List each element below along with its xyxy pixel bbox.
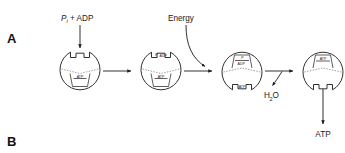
bottom-site-label-2: ATP xyxy=(158,75,165,79)
bottom-site-label-1: ATP xyxy=(77,75,84,79)
energy-input-arrow xyxy=(186,25,205,67)
substrate-adp-text: + ADP xyxy=(70,14,94,23)
enzyme-body-2 xyxy=(141,52,181,90)
panel-label-b: B xyxy=(7,134,16,149)
atp-synthase-cycle-diagram: A B P i + ADP Energy ATP P i ADP ATP xyxy=(0,0,345,153)
enzyme-state-2: P i ADP ATP xyxy=(141,52,181,90)
bottom-site-label-3: ATP xyxy=(239,85,246,89)
catalytic-cleft-dotted-3 xyxy=(224,68,261,72)
top-site-label-subscript-2: i xyxy=(157,55,158,59)
water-o-letter: O xyxy=(273,91,279,100)
top-site-label-adp-3: ADP xyxy=(238,62,246,66)
water-release-arrow xyxy=(273,72,283,86)
enzyme-state-4: ATP xyxy=(303,52,343,90)
substrate-input-label: P i + ADP xyxy=(61,14,94,24)
catalytic-cleft-dotted-1 xyxy=(62,69,99,74)
enzyme-state-3: P ADP ATP xyxy=(222,52,262,90)
panel-label-a: A xyxy=(7,31,17,46)
top-site-label-adp-2: ADP xyxy=(160,54,168,58)
energy-label: Energy xyxy=(168,14,195,23)
enzyme-body-1 xyxy=(60,52,100,90)
enzyme-state-1: ATP xyxy=(60,52,100,90)
water-output-label: H 2 O xyxy=(264,91,279,102)
product-output-label: ATP xyxy=(315,130,331,139)
top-site-label-4: ATP xyxy=(320,57,327,61)
catalytic-cleft-dotted-2 xyxy=(143,69,180,74)
top-site-label-p-3: P xyxy=(241,56,244,60)
catalytic-cleft-dotted-4 xyxy=(305,68,342,72)
substrate-p-subscript: i xyxy=(67,18,69,24)
